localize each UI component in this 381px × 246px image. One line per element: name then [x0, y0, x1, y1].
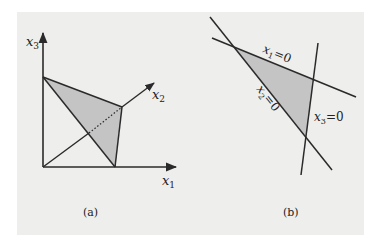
- shaded-triangle-a: [43, 77, 122, 167]
- caption-a: (a): [83, 206, 98, 219]
- x3-label: x3: [26, 34, 39, 51]
- shaded-triangle-b: [234, 47, 313, 136]
- caption-b: (b): [283, 206, 299, 219]
- subfigure-b: x1=0 x2=0 x3=0 (b): [210, 17, 356, 219]
- x2-axis: [122, 83, 154, 107]
- x1-label: x1: [162, 173, 175, 190]
- label-x3-eq-0: x3=0: [314, 110, 344, 126]
- x2-label: x2: [152, 87, 165, 104]
- subfigure-a: x3 x2 x1 (a): [26, 33, 176, 219]
- figure-svg: x3 x2 x1 (a) x1=0 x2=0 x3=0 (b): [0, 0, 381, 246]
- x2-axis-front: [43, 133, 89, 167]
